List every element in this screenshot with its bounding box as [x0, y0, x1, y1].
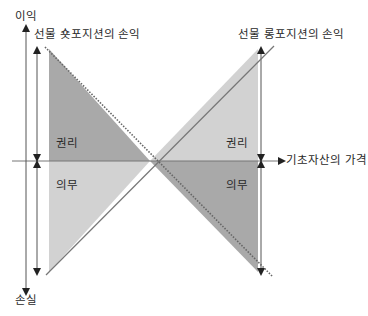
long-obligation-label: 의무 — [226, 180, 248, 192]
short-right-label: 권리 — [56, 138, 78, 150]
short-obligation-label: 의무 — [56, 180, 78, 192]
short-position-title: 선물 숏포지션의 손익 — [34, 29, 140, 41]
y-axis-top-label: 이익 — [15, 11, 37, 23]
x-axis-label: 기초자산의 가격 — [286, 155, 367, 167]
y-axis-bottom-label: 손실 — [15, 295, 37, 307]
long-position-title: 선물 롱포지션의 손익 — [238, 29, 344, 41]
long-right-label: 권리 — [226, 138, 248, 150]
